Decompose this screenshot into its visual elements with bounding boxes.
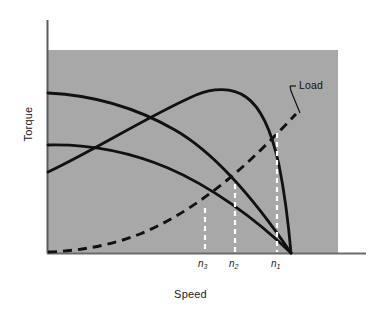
- chart-svg: [0, 0, 381, 309]
- load-annotation-label: Load: [299, 79, 323, 91]
- y-axis-label: Torque: [22, 94, 34, 154]
- x-axis-label: Speed: [0, 288, 381, 300]
- x-tick-label-n3: n3: [198, 258, 207, 270]
- x-tick-label-n1: n1: [271, 258, 280, 270]
- torque-speed-figure: Torque Speed n3 n2 n1 Load: [0, 0, 381, 309]
- plot-panel: [48, 50, 338, 253]
- x-tick-label-n2: n2: [229, 258, 238, 270]
